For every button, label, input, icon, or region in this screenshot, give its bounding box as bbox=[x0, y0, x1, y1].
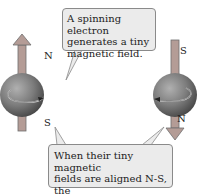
callout-line: fields are aligned N-S, the bbox=[54, 173, 168, 195]
callout-bottom-tail-left bbox=[55, 127, 66, 145]
right-north-label: N bbox=[177, 113, 186, 124]
callout-bottom-tail-right bbox=[142, 127, 164, 145]
callout-line: A spinning electron bbox=[67, 13, 151, 36]
callout-line: generates a tiny bbox=[67, 36, 151, 48]
left-south-label: S bbox=[44, 117, 51, 128]
left-electron bbox=[0, 34, 44, 131]
left-north-label: N bbox=[44, 50, 53, 61]
arrow-up-icon bbox=[13, 34, 31, 45]
callout-spinning-electron: A spinning electron generates a tiny mag… bbox=[62, 8, 156, 51]
callout-line: When their tiny magnetic bbox=[54, 150, 168, 173]
left-electron-sphere bbox=[0, 73, 44, 117]
callout-paired-spins: When their tiny magnetic fields are alig… bbox=[48, 144, 173, 188]
right-electron bbox=[153, 40, 197, 140]
callout-line: magnetic field. bbox=[67, 48, 151, 60]
arrow-down-icon bbox=[166, 128, 184, 140]
right-south-label: S bbox=[180, 45, 187, 56]
